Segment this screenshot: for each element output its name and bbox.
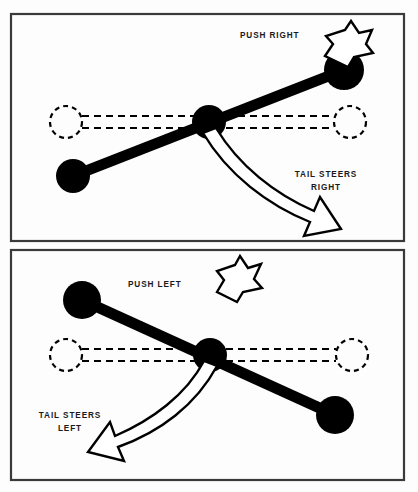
push-left-label: PUSH LEFT	[128, 280, 182, 289]
figure-canvas: PUSH RIGHT TAIL STEERS RIGHT	[0, 0, 418, 492]
tail-steers-left-label-line2: LEFT	[58, 424, 82, 433]
tail-steering-figure: PUSH RIGHT TAIL STEERS RIGHT	[0, 0, 418, 492]
ball-lower-right-bottom	[316, 396, 354, 434]
tail-steers-right-label-line1: TAIL STEERS	[295, 170, 357, 179]
ball-upper-left-bottom	[63, 281, 101, 319]
push-right-label: PUSH RIGHT	[240, 31, 300, 40]
tail-steers-right-label-line2: RIGHT	[311, 183, 341, 192]
ball-lower-left-top	[56, 159, 90, 193]
tail-steers-left-label-line1: TAIL STEERS	[39, 411, 101, 420]
